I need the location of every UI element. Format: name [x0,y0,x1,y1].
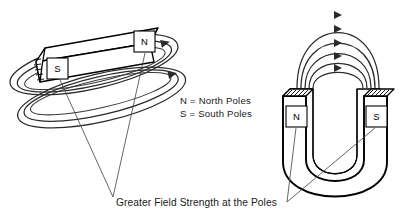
horseshoe-south-letter: S [373,111,379,122]
bar-magnet-south-letter: S [54,63,60,74]
horseshoe-south-label: S [366,106,387,127]
caption-greater-field-strength: Greater Field Strength at the Poles [116,197,277,208]
magnetism-figure: S N N = North Poles S = South Poles [0,0,409,222]
legend-north-line: N = North Poles [180,95,251,106]
bar-magnet-north-letter: N [141,36,148,47]
horseshoe-north-label: N [286,106,307,127]
bar-magnet-south-label: S [47,58,68,79]
figure-canvas: S N N = North Poles S = South Poles [0,0,409,222]
horseshoe-north-letter: N [293,111,300,122]
legend-south-line: S = South Poles [180,108,252,119]
bar-magnet-north-label: N [134,31,155,52]
